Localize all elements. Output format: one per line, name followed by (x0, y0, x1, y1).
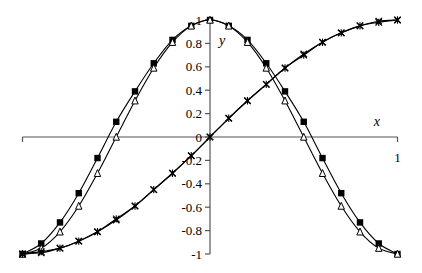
star-marker (338, 29, 344, 36)
star-marker (132, 202, 138, 209)
triangle-marker (94, 170, 100, 177)
star-marker (226, 115, 232, 122)
chart: 1x10.80.60.40.20-0.2-0.4-0.6-0.8-1y (0, 0, 422, 273)
star-marker (282, 64, 288, 71)
y-tick-label: 0 (196, 130, 203, 145)
square-marker (319, 155, 325, 161)
square-marker (57, 219, 63, 225)
square-marker (301, 119, 307, 125)
square-marker (282, 88, 288, 94)
y-tick-label: 0.8 (186, 36, 202, 51)
square-marker (338, 190, 344, 196)
triangle-marker (319, 170, 325, 177)
star-marker (94, 228, 100, 235)
star-marker (76, 237, 82, 244)
x-axis-title: x (373, 114, 381, 129)
y-tick-label: 0.4 (186, 83, 203, 98)
square-marker (94, 155, 100, 161)
square-marker (113, 119, 119, 125)
star-marker (169, 170, 175, 177)
star-marker (244, 97, 250, 104)
axes: 1x10.80.60.40.20-0.2-0.4-0.6-0.8-1y (23, 13, 401, 262)
star-marker (57, 244, 63, 251)
y-axis-title: y (217, 33, 226, 48)
y-tick-label: -0.4 (181, 176, 202, 191)
star-marker (263, 81, 269, 88)
square-marker (132, 88, 138, 94)
x-tick-label: 1 (394, 150, 401, 165)
triangle-marker (132, 97, 138, 104)
square-marker (76, 190, 82, 196)
star-marker (319, 39, 325, 46)
y-tick-label: -0.6 (181, 200, 202, 215)
square-marker (357, 219, 363, 225)
y-tick-label: -0.8 (181, 223, 202, 238)
triangle-marker (282, 97, 288, 104)
star-marker (357, 22, 363, 29)
y-tick-label: -1 (191, 247, 202, 262)
star-marker (151, 186, 157, 193)
y-tick-label: 0.6 (186, 59, 203, 74)
y-tick-label: 0.2 (186, 106, 202, 121)
y-tick-label: 1 (196, 13, 203, 28)
